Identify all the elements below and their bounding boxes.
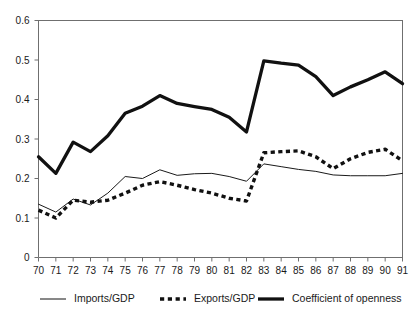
x-tick-label: 79 xyxy=(189,265,201,276)
x-tick-label: 86 xyxy=(310,265,322,276)
x-tick-label: 77 xyxy=(154,265,166,276)
x-tick-label: 76 xyxy=(137,265,149,276)
legend-label: Imports/GDP xyxy=(74,292,135,304)
y-tick-label: 0.3 xyxy=(16,134,30,145)
x-tick-label: 84 xyxy=(276,265,288,276)
x-tick-label: 74 xyxy=(102,265,114,276)
chart-legend: Imports/GDPExports/GDPCoefficient of ope… xyxy=(40,292,402,304)
x-tick-label: 83 xyxy=(258,265,270,276)
x-tick-label: 88 xyxy=(345,265,357,276)
y-tick-label: 0.4 xyxy=(16,94,30,105)
x-tick-label: 81 xyxy=(224,265,236,276)
legend-label: Exports/GDP xyxy=(194,292,255,304)
x-tick-label: 87 xyxy=(328,265,340,276)
y-tick-label: 0.6 xyxy=(16,15,30,26)
x-tick-label: 90 xyxy=(380,265,392,276)
y-tick-label: 0.1 xyxy=(16,213,30,224)
x-tick-label: 71 xyxy=(50,265,62,276)
x-tick-label: 82 xyxy=(241,265,253,276)
y-tick-label: 0.5 xyxy=(16,55,30,66)
x-tick-label: 91 xyxy=(397,265,409,276)
x-tick-label: 80 xyxy=(206,265,218,276)
line-chart: 0.60.50.40.30.20.10 70717273747576777879… xyxy=(0,0,416,320)
x-tick-label: 85 xyxy=(293,265,305,276)
x-tick-label: 75 xyxy=(120,265,132,276)
y-tick-label: 0 xyxy=(24,252,30,263)
x-tick-label: 70 xyxy=(33,265,45,276)
x-tick-label: 73 xyxy=(85,265,97,276)
x-tick-label: 78 xyxy=(172,265,184,276)
x-tick-label: 89 xyxy=(362,265,374,276)
x-tick-label: 72 xyxy=(68,265,80,276)
legend-label: Coefficient of openness xyxy=(292,292,402,304)
y-tick-label: 0.2 xyxy=(16,173,30,184)
